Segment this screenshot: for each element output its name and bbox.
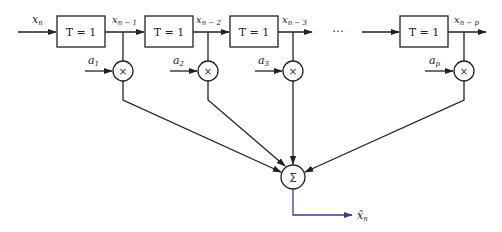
delay-block-1: T = 1: [57, 16, 105, 47]
output-signal: x̂n: [293, 189, 368, 223]
ellipsis: ···: [332, 25, 343, 39]
input-signal: xn: [18, 13, 56, 32]
multiplier-3: a3 ×: [255, 54, 303, 81]
svg-text:a1: a1: [88, 54, 99, 68]
label-x-n-3: xn − 3: [282, 14, 307, 27]
summer-node: Σ: [281, 165, 305, 189]
multiply-icon: ×: [460, 66, 468, 77]
linear-predictor-diagram: xn T = 1 xn − 1 T = 1 xn − 2 T = 1 xn − …: [0, 0, 502, 232]
delay-block-3: T = 1: [230, 16, 278, 47]
multiplier-p: ap ×: [425, 54, 474, 81]
multiplier-1: a1 ×: [85, 54, 133, 81]
svg-text:a3: a3: [258, 54, 270, 68]
svg-text:T = 1: T = 1: [409, 26, 440, 39]
svg-text:T = 1: T = 1: [239, 26, 270, 39]
label-x-n-p: xn − p: [454, 14, 479, 27]
multiply-icon: ×: [119, 66, 127, 77]
sigma-icon: Σ: [289, 171, 297, 185]
label-x-n-2: xn − 2: [196, 14, 221, 27]
multiplier-2: a2 ×: [170, 54, 218, 81]
delay-block-p: T = 1: [400, 16, 448, 47]
delay-block-2: T = 1: [145, 16, 193, 47]
svg-text:xn: xn: [32, 13, 43, 27]
svg-text:ap: ap: [429, 54, 441, 68]
svg-text:a2: a2: [173, 54, 185, 68]
label-x-n-1: xn − 1: [112, 14, 137, 27]
svg-text:T = 1: T = 1: [154, 26, 185, 39]
svg-text:x̂n: x̂n: [357, 209, 368, 223]
svg-text:T = 1: T = 1: [66, 26, 97, 39]
multiply-icon: ×: [204, 66, 212, 77]
multiply-icon: ×: [289, 66, 297, 77]
